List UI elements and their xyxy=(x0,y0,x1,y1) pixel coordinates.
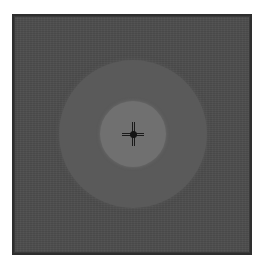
image-canvas xyxy=(0,0,264,265)
image-frame xyxy=(12,14,252,255)
crosshair-center-dot xyxy=(130,131,137,138)
